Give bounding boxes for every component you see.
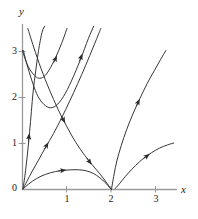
- y-tick-label-0: 0: [6, 183, 17, 193]
- trajectory-curve: [112, 51, 166, 190]
- x-tick-label-1: 1: [61, 194, 73, 204]
- trajectory-curve: [115, 143, 174, 189]
- phase-portrait-figure: y x 1 2 3 0 1 2 3: [0, 0, 198, 219]
- flow-direction-arrow-icon: [44, 145, 46, 149]
- flow-direction-arrow-icon: [136, 102, 138, 107]
- x-axis-label: x: [181, 184, 186, 195]
- y-tick-label-1: 1: [6, 138, 17, 148]
- trajectory-curve: [23, 26, 45, 188]
- trajectory-curves-group: [23, 26, 174, 189]
- x-tick-label-3: 3: [150, 194, 162, 204]
- trajectory-curve: [23, 170, 112, 190]
- trajectory-curve: [23, 29, 101, 190]
- trajectory-curve: [23, 26, 93, 108]
- phase-plot-svg: [0, 0, 198, 219]
- y-axis-label: y: [19, 6, 24, 17]
- flow-direction-arrow-icon: [87, 158, 90, 162]
- axes-group: [19, 24, 178, 193]
- x-tick-label-2: 2: [105, 194, 117, 204]
- y-tick-label-2: 2: [6, 92, 17, 102]
- trajectory-curve: [28, 29, 111, 189]
- y-tick-label-3: 3: [6, 46, 17, 56]
